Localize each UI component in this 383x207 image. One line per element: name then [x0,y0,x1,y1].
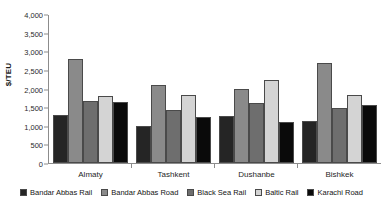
bar [234,89,249,163]
x-axis-category-label: Bishkek [298,170,381,179]
y-axis-tick-mark [44,33,48,34]
bar [83,101,98,163]
y-axis-tick-mark [44,15,48,16]
y-axis-tick-label: 3,000 [24,48,43,57]
legend-label: Bandar Abbas Road [111,188,178,197]
bar-group [215,15,298,163]
bar [196,117,211,163]
x-axis-category-label: Almaty [49,170,132,179]
y-axis-tick-mark [44,89,48,90]
legend-item[interactable]: Karachi Road [307,188,362,197]
bar-group [49,15,132,163]
bar [317,63,332,163]
bar [68,59,83,163]
y-axis-tick-mark [44,126,48,127]
x-axis-category-label: Tashkent [132,170,215,179]
legend-item[interactable]: Black Sea Rail [187,188,246,197]
x-axis-category-label: Dushanbe [215,170,298,179]
x-axis-tick-mark [214,164,215,168]
y-axis-tick-label: 1,500 [24,104,43,113]
bar [249,103,264,163]
bar [113,102,128,163]
y-axis-title: $/TEU [4,51,13,99]
y-axis-tick-mark [44,108,48,109]
legend-swatch-icon [187,189,194,196]
plot-area: 4,0003,5003,0002,5002,0001,5001,0005000 [48,15,381,164]
legend-item[interactable]: Bandar Abbas Rail [20,188,92,197]
y-axis-tick-mark [44,70,48,71]
legend-item[interactable]: Baltic Rail [255,188,298,197]
bar [181,95,196,163]
bar-chart: $/TEU 4,0003,5003,0002,5002,0001,5001,00… [0,0,383,207]
bar [136,126,151,163]
legend-item[interactable]: Bandar Abbas Road [101,188,178,197]
bar [362,105,377,163]
bar-groups [49,15,381,163]
legend-label: Karachi Road [317,188,362,197]
x-axis-category-labels: AlmatyTashkentDushanbeBishkek [49,170,381,179]
x-axis-tick-mark [131,164,132,168]
y-axis-tick-mark [44,164,48,165]
legend-swatch-icon [101,189,108,196]
legend-swatch-icon [307,189,314,196]
bar-group [298,15,381,163]
y-axis-tick-mark [44,52,48,53]
bar [332,108,347,163]
legend-label: Black Sea Rail [197,188,246,197]
y-axis-tick-label: 1,000 [24,122,43,131]
bar [98,96,113,163]
bar [166,110,181,163]
legend-swatch-icon [20,189,27,196]
bar [219,116,234,163]
bar [347,95,362,163]
bar [264,80,279,163]
bar [279,122,294,163]
bar [151,85,166,163]
y-axis-tick-label: 2,000 [24,85,43,94]
y-axis-tick-label: 500 [30,141,43,150]
legend-label: Bandar Abbas Rail [30,188,92,197]
legend-swatch-icon [255,189,262,196]
legend-label: Baltic Rail [265,188,298,197]
chart-legend: Bandar Abbas RailBandar Abbas RoadBlack … [0,188,383,197]
y-axis-tick-label: 4,000 [24,11,43,20]
bar [302,121,317,163]
x-axis-tick-mark [297,164,298,168]
bar [53,115,68,163]
y-axis-tick-label: 0 [39,160,43,169]
y-axis-tick-mark [44,145,48,146]
y-axis-tick-label: 2,500 [24,66,43,75]
y-axis-tick-label: 3,500 [24,29,43,38]
bar-group [132,15,215,163]
